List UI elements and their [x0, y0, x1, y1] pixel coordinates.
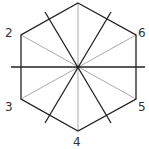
vertex-label-2: 2	[5, 27, 13, 39]
center-point	[77, 66, 80, 69]
vertex-label-6: 6	[138, 27, 146, 39]
vertex-label-5: 5	[138, 101, 146, 113]
hexagon-diagram: 2 3 4 5 6	[0, 0, 149, 149]
hexagon-svg	[0, 0, 149, 149]
vertex-label-4: 4	[73, 136, 81, 148]
vertex-label-3: 3	[5, 101, 13, 113]
